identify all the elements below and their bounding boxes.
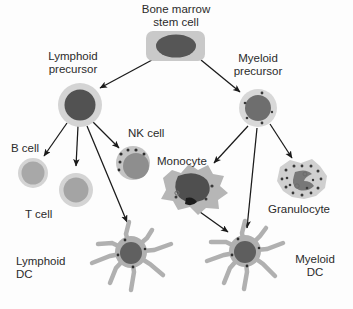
label-granulocyte: Granulocyte: [268, 203, 346, 216]
label-lymphoid-precursor: Lymphoid precursor: [27, 50, 119, 75]
cell-t-cell: [59, 173, 93, 207]
edge-lymphoid-to-tcell: [76, 126, 78, 166]
label-monocyte: Monocyte: [157, 155, 225, 168]
cell-nk-cell: [116, 146, 150, 180]
label-myeloid-dc: Myeloid DC: [285, 253, 345, 278]
label-myeloid-precursor: Myeloid precursor: [213, 52, 303, 77]
label-bone-marrow-stem-cell: Bone marrow stem cell: [130, 3, 222, 28]
edge-myeloid-to-myeloiddc: [247, 128, 257, 228]
cell-bone-marrow-stem-cell: [146, 31, 205, 61]
edge-myeloid-to-granulocyte: [270, 124, 292, 158]
label-b-cell: B cell: [11, 142, 63, 155]
label-nk-cell: NK cell: [128, 127, 186, 140]
diagram-canvas: Bone marrow stem cell Lymphoid precursor…: [0, 0, 353, 309]
cell-lymphoid-dc: [92, 222, 171, 290]
edge-lymphoid-to-nkcell: [93, 122, 119, 148]
label-t-cell: T cell: [25, 208, 77, 221]
cell-lymphoid-precursor: [58, 83, 102, 127]
label-lymphoid-dc: Lymphoid DC: [16, 255, 80, 280]
cell-myeloid-dc: [207, 221, 283, 289]
cell-b-cell: [18, 158, 48, 188]
cell-monocyte: [161, 164, 228, 215]
cell-myeloid-precursor: [239, 89, 277, 127]
cell-granulocyte: [277, 159, 327, 199]
